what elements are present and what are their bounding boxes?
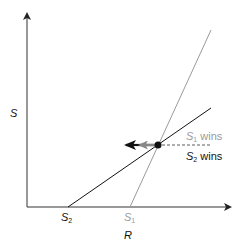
s1-wins-text: wins (197, 130, 222, 142)
s2-wins-text: wins (197, 150, 222, 162)
y-axis-label-text: S (10, 107, 17, 119)
x-axis-label: R (124, 229, 132, 241)
s1-isocline (130, 30, 211, 207)
s1-intercept-label: S1 (124, 211, 135, 227)
s2-intercept-label: S2 (61, 211, 72, 227)
y-axis-label: S (10, 107, 17, 119)
x-axis-label-text: R (124, 229, 132, 241)
diagram-canvas (0, 0, 245, 250)
s2-wins-label: S2 wins (186, 150, 222, 166)
s1-wins-label: S1 wins (186, 130, 222, 146)
s2-intercept-sub: 2 (68, 217, 72, 224)
s1-intercept-sub: 1 (131, 217, 135, 224)
equilibrium-point (155, 142, 162, 149)
